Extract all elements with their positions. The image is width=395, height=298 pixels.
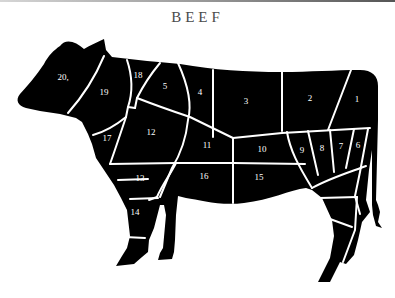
cut-label-16: 16 [200,171,210,181]
cut-label-7: 7 [339,141,344,151]
cut-label-10: 10 [258,144,268,154]
cut-label-13: 13 [136,173,146,183]
cut-label-15: 15 [255,172,265,182]
cow-silhouette [18,39,382,282]
beef-cuts-diagram: 1 2 3 4 5 6 7 8 9 10 11 12 13 14 15 16 1… [0,0,395,298]
cut-label-8: 8 [320,143,325,153]
cut-label-1: 1 [355,94,360,104]
cut-label-18: 18 [134,70,144,80]
cut-label-12: 12 [147,127,156,137]
cut-label-20: 20, [57,72,68,82]
cut-label-11: 11 [203,140,212,150]
cut-label-4: 4 [198,87,203,97]
cut-label-3: 3 [244,96,249,106]
cut-label-5: 5 [163,81,168,91]
cut-label-6: 6 [356,140,361,150]
cut-label-2: 2 [308,93,313,103]
cut-label-17: 17 [103,133,113,143]
cut-label-14: 14 [131,207,141,217]
cut-label-19: 19 [100,87,110,97]
cut-label-9: 9 [300,145,305,155]
